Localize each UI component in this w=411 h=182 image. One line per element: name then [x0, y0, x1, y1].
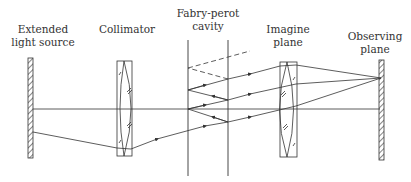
observing-label-line1: Observing: [348, 30, 403, 42]
diagram: Extended light source Collimator Fabry-p…: [0, 0, 411, 182]
collimator-lens: [117, 61, 132, 156]
imagine-label-line2: plane: [273, 36, 302, 48]
collimator-label: Collimator: [99, 23, 156, 35]
observing-plane: [379, 60, 384, 160]
light-rays: [33, 51, 381, 149]
source-label-line1: Extended: [18, 23, 69, 35]
cavity-label-line1: Fabry-perot: [177, 7, 240, 19]
imagine-label-line1: Imagine: [266, 23, 309, 35]
light-source: [28, 58, 33, 158]
diagram-canvas: Extended light source Collimator Fabry-p…: [0, 0, 411, 182]
observing-label-line2: plane: [360, 43, 389, 55]
source-label-line2: light source: [11, 36, 74, 48]
cavity-label-line2: cavity: [192, 20, 224, 32]
